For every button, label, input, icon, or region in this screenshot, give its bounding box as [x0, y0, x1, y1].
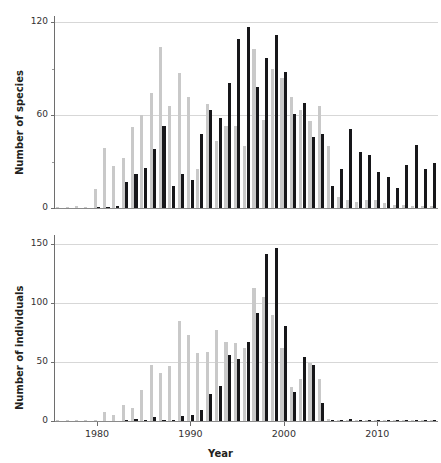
bar: [265, 58, 268, 208]
y-axis-title-species: Number of species: [14, 70, 25, 175]
y-tick-label: 0: [18, 415, 48, 425]
x-tick-mark: [377, 422, 378, 426]
bar: [293, 392, 296, 421]
x-tick-label: 2010: [352, 428, 402, 439]
bar: [94, 189, 97, 208]
bar: [275, 248, 278, 421]
x-tick-label: 2000: [259, 428, 309, 439]
y-tick-label: 0: [18, 202, 48, 212]
bar: [284, 326, 287, 421]
bar: [256, 313, 259, 421]
bar: [150, 365, 153, 422]
bar: [247, 27, 250, 208]
panel-number-of-individuals: Number of individuals 050100150 19801990…: [0, 222, 441, 463]
bar: [162, 126, 165, 208]
bar: [103, 148, 106, 208]
bar: [191, 180, 194, 208]
bar: [122, 405, 125, 421]
figure-two-panel-bar-chart: Number of species 060120 Number of indiv…: [0, 0, 441, 463]
y-tick-label: 60: [18, 109, 48, 119]
bar: [178, 321, 181, 421]
bar-series-species: [55, 16, 438, 208]
bar: [237, 39, 240, 208]
bar: [168, 366, 171, 421]
x-tick-label: 1990: [165, 428, 215, 439]
x-tick-mark: [190, 422, 191, 426]
bar: [321, 403, 324, 421]
bar: [387, 177, 390, 208]
bar: [172, 186, 175, 208]
baseline-species: [55, 208, 438, 209]
bar: [349, 129, 352, 208]
bar: [159, 373, 162, 421]
bar: [275, 35, 278, 208]
bar: [228, 83, 231, 208]
bar: [140, 390, 143, 421]
bar: [187, 335, 190, 421]
x-axis-title: Year: [0, 448, 441, 459]
bar: [112, 166, 115, 208]
bar: [312, 365, 315, 422]
bar-series-individuals: [55, 235, 438, 421]
bar: [237, 359, 240, 421]
plot-area-individuals: [55, 235, 438, 421]
bar: [415, 145, 418, 208]
y-tick-label: 50: [18, 356, 48, 366]
bar: [368, 155, 371, 208]
x-tick-mark: [97, 422, 98, 426]
y-tick-label: 100: [18, 297, 48, 307]
bar: [303, 103, 306, 208]
bar: [256, 87, 259, 208]
bar: [396, 188, 399, 208]
bar: [359, 152, 362, 208]
bar: [200, 134, 203, 208]
bar: [321, 134, 324, 208]
bar: [405, 165, 408, 208]
bar: [209, 394, 212, 421]
bar: [144, 168, 147, 208]
bar: [219, 386, 222, 421]
plot-area-species: [55, 16, 438, 208]
bar: [209, 110, 212, 208]
bar: [153, 149, 156, 208]
bar: [331, 186, 334, 208]
bar: [200, 410, 203, 421]
x-tick-mark: [284, 422, 285, 426]
bar: [125, 182, 128, 208]
y-tick-label: 150: [18, 238, 48, 248]
bar: [377, 172, 380, 208]
bar: [312, 137, 315, 208]
bar: [228, 355, 231, 421]
bar: [293, 114, 296, 208]
bar: [424, 169, 427, 208]
x-tick-label: 1980: [72, 428, 122, 439]
bar: [134, 174, 137, 208]
bar: [219, 118, 222, 208]
bar: [181, 174, 184, 208]
bar: [265, 254, 268, 421]
panel-number-of-species: Number of species 060120: [0, 0, 441, 222]
bar: [247, 342, 250, 421]
y-tick-label: 120: [18, 16, 48, 26]
bar: [103, 412, 106, 421]
bar: [433, 163, 436, 208]
bar: [284, 72, 287, 208]
bar: [340, 169, 343, 208]
bar: [303, 357, 306, 421]
baseline-individuals: [55, 421, 438, 422]
